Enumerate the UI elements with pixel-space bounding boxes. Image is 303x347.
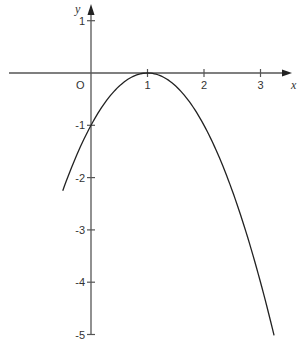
- y-tick-label: -5: [75, 329, 85, 341]
- y-tick-label: -3: [75, 224, 85, 236]
- x-axis-arrow-icon: [282, 70, 292, 77]
- y-tick-label: 1: [79, 15, 85, 27]
- y-tick-label: -4: [75, 276, 85, 288]
- origin-label: O: [76, 79, 85, 91]
- y-axis-label: y: [74, 2, 81, 16]
- x-axis-label: x: [290, 78, 297, 92]
- x-tick-label: 3: [258, 79, 264, 91]
- parabola-plot: 123 1-1-2-3-4-5 x y O: [0, 0, 303, 347]
- x-tick-label: 1: [145, 79, 151, 91]
- y-axis-arrow-icon: [88, 4, 95, 15]
- y-ticks: 1-1-2-3-4-5: [75, 15, 95, 341]
- x-ticks: 123: [145, 69, 264, 91]
- parabola-curve: [63, 73, 274, 335]
- y-axis: [88, 4, 95, 335]
- y-tick-label: -2: [75, 172, 85, 184]
- x-tick-label: 2: [201, 79, 207, 91]
- y-tick-label: -1: [75, 119, 85, 131]
